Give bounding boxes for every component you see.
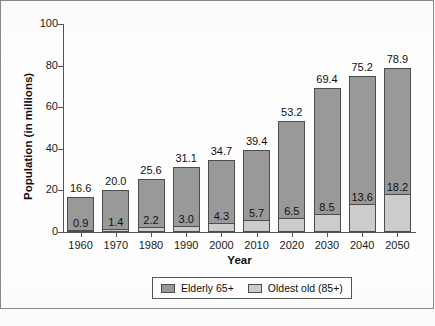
plot-area: 16.60.920.01.425.62.231.13.034.74.339.45… bbox=[63, 24, 415, 232]
bar-value-label-total: 75.2 bbox=[342, 61, 382, 73]
legend-swatch-icon bbox=[248, 284, 262, 293]
bar-value-label-sub: 6.5 bbox=[272, 205, 312, 217]
x-tick-mark bbox=[116, 233, 117, 237]
legend-label: Oldest old (85+) bbox=[268, 283, 343, 294]
y-tick-mark bbox=[58, 232, 63, 233]
bar-value-label-total: 25.6 bbox=[131, 164, 171, 176]
bar-segment-oldest-old[interactable] bbox=[102, 229, 129, 232]
bar-value-label-sub: 13.6 bbox=[342, 191, 382, 203]
x-tick-label: 1960 bbox=[61, 239, 101, 251]
x-tick-label: 2040 bbox=[342, 239, 382, 251]
bar-value-label-total: 20.0 bbox=[96, 175, 136, 187]
bar-segment-oldest-old[interactable] bbox=[243, 220, 270, 232]
x-tick-mark bbox=[257, 233, 258, 237]
bar-group[interactable] bbox=[384, 68, 411, 232]
y-tick-label: 40 bbox=[12, 143, 58, 154]
y-tick-label: 100 bbox=[12, 18, 58, 29]
bar-value-label-sub: 4.3 bbox=[201, 210, 241, 222]
x-tick-label: 1980 bbox=[131, 239, 171, 251]
bar-group[interactable] bbox=[349, 76, 376, 232]
bar-segment-oldest-old[interactable] bbox=[349, 204, 376, 232]
bar-value-label-sub: 1.4 bbox=[96, 216, 136, 228]
y-tick-label: 80 bbox=[12, 60, 58, 71]
x-tick-label: 2020 bbox=[272, 239, 312, 251]
bar-value-label-sub: 2.2 bbox=[131, 214, 171, 226]
x-tick-mark bbox=[186, 233, 187, 237]
bar-value-label-total: 16.6 bbox=[61, 182, 101, 194]
chart-figure: 020406080100 196019701980199020002010202… bbox=[0, 0, 435, 326]
x-tick-label: 2050 bbox=[377, 239, 417, 251]
bar-value-label-sub: 0.9 bbox=[61, 217, 101, 229]
y-tick-label-wrap: 80 bbox=[0, 60, 58, 71]
legend-label: Elderly 65+ bbox=[181, 283, 234, 294]
bar-segment-oldest-old[interactable] bbox=[384, 194, 411, 232]
bar-segment-oldest-old[interactable] bbox=[278, 218, 305, 232]
x-tick-mark bbox=[221, 233, 222, 237]
x-tick-mark bbox=[292, 233, 293, 237]
bar-value-label-total: 39.4 bbox=[237, 135, 277, 147]
x-tick-label: 1990 bbox=[166, 239, 206, 251]
bar-value-label-total: 78.9 bbox=[377, 53, 417, 65]
bar-value-label-total: 53.2 bbox=[272, 106, 312, 118]
x-tick-label: 2010 bbox=[237, 239, 277, 251]
x-tick-mark bbox=[81, 233, 82, 237]
y-tick-label: 20 bbox=[12, 184, 58, 195]
x-axis-title: Year bbox=[63, 254, 416, 266]
y-axis-title: Population (in millions) bbox=[22, 73, 34, 200]
bar-value-label-sub: 18.2 bbox=[377, 181, 417, 193]
bar-segment-oldest-old[interactable] bbox=[67, 230, 94, 232]
x-tick-label: 1970 bbox=[96, 239, 136, 251]
bar-value-label-total: 69.4 bbox=[307, 73, 347, 85]
legend-swatch-icon bbox=[161, 284, 175, 293]
x-tick-label: 2030 bbox=[307, 239, 347, 251]
legend-entry[interactable]: Oldest old (85+) bbox=[248, 283, 343, 294]
bar-value-label-total: 34.7 bbox=[201, 145, 241, 157]
legend-entry[interactable]: Elderly 65+ bbox=[161, 283, 234, 294]
y-tick-label-wrap: 0 bbox=[0, 226, 58, 237]
x-tick-mark bbox=[362, 233, 363, 237]
x-tick-mark bbox=[327, 233, 328, 237]
x-tick-mark bbox=[397, 233, 398, 237]
bar-value-label-sub: 5.7 bbox=[237, 207, 277, 219]
bar-segment-oldest-old[interactable] bbox=[314, 214, 341, 232]
x-tick-label: 2000 bbox=[201, 239, 241, 251]
x-tick-mark bbox=[151, 233, 152, 237]
bar-segment-oldest-old[interactable] bbox=[208, 223, 235, 232]
y-tick-label: 60 bbox=[12, 101, 58, 112]
chart-legend: Elderly 65+Oldest old (85+) bbox=[152, 277, 352, 299]
bar-value-label-total: 31.1 bbox=[166, 152, 206, 164]
y-tick-label: 0 bbox=[12, 226, 58, 237]
y-tick-label-wrap: 100 bbox=[0, 18, 58, 29]
bar-value-label-sub: 8.5 bbox=[307, 201, 347, 213]
bar-group[interactable] bbox=[243, 150, 270, 232]
bar-segment-oldest-old[interactable] bbox=[138, 227, 165, 232]
bar-segment-oldest-old[interactable] bbox=[173, 226, 200, 232]
bar-value-label-sub: 3.0 bbox=[166, 213, 206, 225]
